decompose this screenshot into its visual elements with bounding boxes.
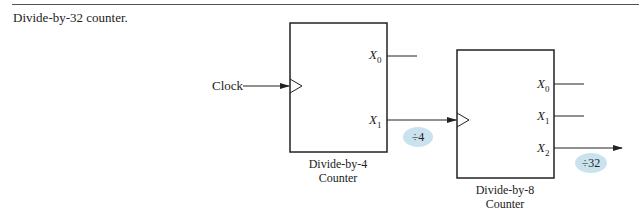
counter-diagram: Clock X0 X1 Divide-by-4 Counter ÷4 X0 X1… (0, 0, 639, 218)
counter-name-line2: Counter (319, 171, 358, 185)
divide-4-badge: ÷4 (403, 127, 433, 147)
clock-label: Clock (212, 78, 244, 93)
divide-32-badge: ÷32 (575, 153, 607, 173)
counter-name-line1: Divide-by-8 (476, 183, 535, 197)
clock-input: Clock (212, 78, 289, 93)
divide-by-8-counter: X0 X1 X2 Divide-by-8 Counter (457, 50, 622, 211)
counter-name-line2: Counter (486, 197, 525, 211)
output-x1-label: X1 (536, 108, 549, 126)
clock-triangle-icon (457, 113, 469, 127)
divide-by-4-counter: X0 X1 Divide-by-4 Counter (290, 23, 456, 185)
svg-text:÷4: ÷4 (412, 130, 425, 144)
output-x0-label: X0 (368, 47, 382, 65)
output-x1-label: X1 (368, 112, 381, 130)
counter-name-line1: Divide-by-4 (309, 157, 368, 171)
output-x0-label: X0 (536, 76, 550, 94)
output-x2-label: X2 (536, 140, 549, 158)
clock-triangle-icon (290, 79, 302, 93)
svg-text:÷32: ÷32 (582, 156, 601, 170)
counter-box (290, 23, 387, 152)
